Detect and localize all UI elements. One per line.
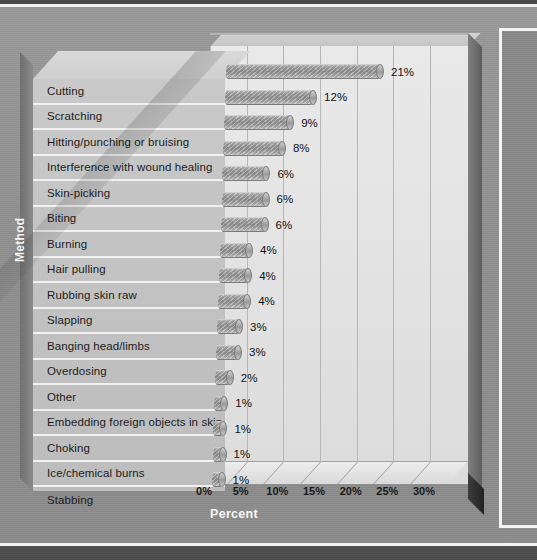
- bar: [216, 345, 238, 360]
- bar-row: 1%: [213, 447, 251, 462]
- category-label: Ice/chemical burns: [33, 467, 145, 479]
- bar: [219, 268, 248, 283]
- bar: [223, 141, 282, 156]
- bar-row: 4%: [219, 268, 276, 283]
- bar: [217, 319, 239, 334]
- bar: [212, 472, 222, 487]
- bar-row: 1%: [214, 396, 252, 411]
- category-label: Overdosing: [33, 365, 107, 377]
- bar-value-label: 4%: [258, 295, 275, 307]
- bar-row: 6%: [221, 217, 293, 232]
- bar-row: 6%: [222, 166, 294, 181]
- bar-value-label: 6%: [277, 193, 294, 205]
- bar: [215, 370, 230, 385]
- bar-value-label: 12%: [324, 91, 347, 103]
- bar-row: 12%: [225, 90, 347, 105]
- gridline: [393, 46, 394, 462]
- x-tick-label: 5%: [233, 485, 249, 497]
- bar: [226, 64, 380, 79]
- footer-caption: [14, 552, 314, 560]
- gridline: [283, 46, 284, 462]
- bar: [220, 243, 249, 258]
- bar-row: 9%: [224, 115, 318, 130]
- x-tick-label: 25%: [376, 485, 398, 497]
- bar: [218, 294, 247, 309]
- category-label-row: Slapping: [33, 309, 225, 335]
- category-label: Hair pulling: [33, 263, 106, 275]
- bar-row: 21%: [226, 64, 414, 79]
- x-axis-title: Percent: [0, 507, 468, 521]
- category-label: Other: [33, 391, 76, 403]
- bar-value-label: 21%: [391, 66, 414, 78]
- x-tick-label: 0%: [196, 485, 212, 497]
- bar: [214, 396, 224, 411]
- category-label-panel: CuttingScratchingHitting/punching or bru…: [33, 79, 225, 491]
- category-label-row: Scratching: [33, 105, 225, 131]
- label-panel-top-face: [33, 51, 250, 79]
- category-label: Hitting/punching or bruising: [33, 136, 189, 148]
- category-label-row: Hitting/punching or bruising: [33, 130, 225, 156]
- bar-value-label: 2%: [241, 372, 258, 384]
- category-label-row: Embedding foreign objects in skin: [33, 411, 225, 437]
- gridline: [320, 46, 321, 462]
- category-label-row: Biting: [33, 207, 225, 233]
- category-label-row: Hair pulling: [33, 258, 225, 284]
- bar-row: 4%: [218, 294, 275, 309]
- category-label: Embedding foreign objects in skin: [33, 416, 222, 428]
- y-axis-title: Method: [13, 218, 27, 262]
- bar: [222, 192, 266, 207]
- bar-value-label: 1%: [234, 448, 251, 460]
- bar-value-label: 1%: [235, 397, 252, 409]
- bar-row: 3%: [217, 319, 267, 334]
- bar-value-label: 4%: [259, 270, 276, 282]
- bar-value-label: 6%: [276, 219, 293, 231]
- category-label-row: Other: [33, 385, 225, 411]
- label-panel-left-face: [20, 52, 33, 491]
- category-label: Slapping: [33, 314, 93, 326]
- category-label-row: Skin-picking: [33, 181, 225, 207]
- category-label-row: Ice/chemical burns: [33, 462, 225, 488]
- bar-value-label: 4%: [260, 244, 277, 256]
- bar-row: 2%: [215, 370, 257, 385]
- category-label: Scratching: [33, 110, 102, 122]
- chart-box-top-slab: [210, 33, 481, 47]
- category-label: Cutting: [33, 85, 84, 97]
- category-label: Stabbing: [33, 494, 93, 506]
- x-tick-label: 30%: [413, 485, 435, 497]
- bar: [225, 90, 313, 105]
- x-tick-label: 15%: [303, 485, 325, 497]
- category-label: Skin-picking: [33, 187, 110, 199]
- category-label-row: Choking: [33, 436, 225, 462]
- category-label: Choking: [33, 442, 90, 454]
- gridline: [430, 46, 431, 462]
- bar: [213, 447, 223, 462]
- category-label-row: Banging head/limbs: [33, 334, 225, 360]
- category-label-row: Interference with wound healing: [33, 156, 225, 182]
- bar: [222, 166, 266, 181]
- category-label: Interference with wound healing: [33, 161, 212, 173]
- category-label: Banging head/limbs: [33, 340, 150, 352]
- bar-row: 6%: [222, 192, 294, 207]
- bar-value-label: 1%: [234, 423, 251, 435]
- category-label: Biting: [33, 212, 76, 224]
- bar-row: 4%: [220, 243, 277, 258]
- bar-row: 8%: [223, 141, 309, 156]
- x-tick-label: 10%: [266, 485, 288, 497]
- bar: [213, 421, 223, 436]
- bar: [221, 217, 265, 232]
- category-label-row: Cutting: [33, 79, 225, 105]
- chart-box-right-face: [468, 33, 482, 498]
- bar-row: 1%: [213, 421, 251, 436]
- category-label: Burning: [33, 238, 87, 250]
- bar-value-label: 3%: [250, 321, 267, 333]
- bar: [224, 115, 290, 130]
- bar-row: 3%: [216, 345, 266, 360]
- bar-value-label: 1%: [233, 474, 250, 486]
- x-tick-label: 20%: [340, 485, 362, 497]
- category-label-row: Burning: [33, 232, 225, 258]
- bar-value-label: 3%: [249, 346, 266, 358]
- bar-value-label: 8%: [293, 142, 310, 154]
- bar-value-label: 9%: [301, 117, 318, 129]
- chart-box-top-edge: [210, 33, 468, 35]
- category-label-row: Overdosing: [33, 360, 225, 386]
